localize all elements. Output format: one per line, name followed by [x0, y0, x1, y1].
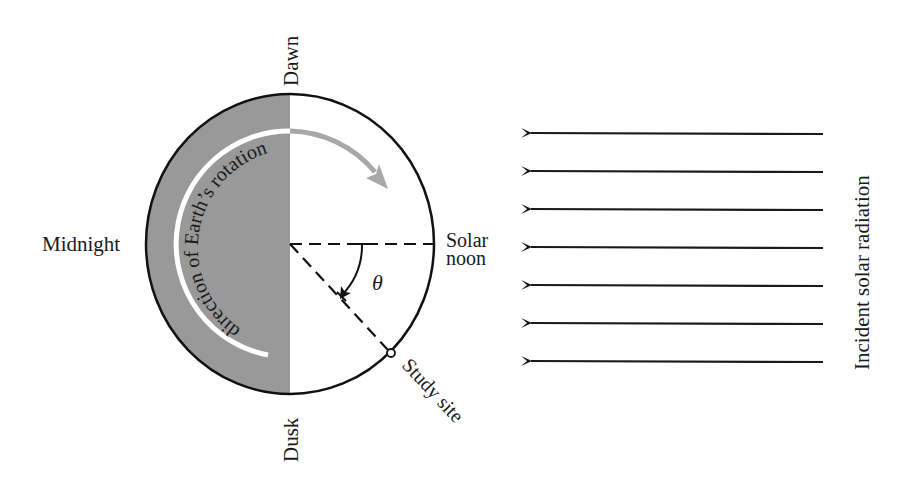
radiation-arrow: [531, 133, 823, 134]
dawn-label: Dawn: [279, 35, 303, 86]
radiation-arrows: [531, 133, 823, 362]
radiation-arrow: [531, 209, 823, 210]
radiation-arrow: [531, 323, 823, 324]
midnight-label: Midnight: [42, 232, 120, 256]
dusk-label: Dusk: [279, 417, 303, 462]
theta-label: θ: [372, 270, 383, 295]
radiation-arrow: [531, 247, 823, 248]
radiation-arrow: [531, 285, 823, 286]
incident-radiation-label: Incident solar radiation: [850, 175, 874, 370]
study-site-label: Study site: [397, 354, 468, 428]
radiation-arrow: [531, 171, 823, 172]
diagram-canvas: direction of Earth’s rotation θ Dawn Dus…: [0, 0, 906, 485]
radiation-arrow: [531, 361, 823, 362]
solar-noon-label-line2: noon: [446, 247, 486, 269]
study-site-marker: [387, 349, 395, 357]
